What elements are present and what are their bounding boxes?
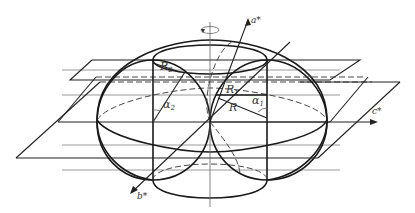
label-alpha1: α1 [252, 94, 264, 108]
tube-cross-sections [97, 60, 327, 180]
label-b-star: b* [137, 191, 148, 201]
rotation-axis [201, 22, 219, 207]
label-R1: R1 [225, 83, 239, 97]
label-R: R [228, 101, 237, 114]
label-alpha2: α2 [163, 98, 175, 112]
label-c-star: c* [372, 106, 382, 116]
torus-diagram: a* c* b* R2 R1 R α2 α1 [0, 0, 415, 213]
torus-outline [97, 40, 327, 180]
plane-middle [58, 77, 372, 122]
diagram-canvas: a* c* b* R2 R1 R α2 α1 [0, 0, 415, 213]
label-R2: R2 [159, 60, 173, 74]
label-a-star: a* [251, 15, 261, 25]
